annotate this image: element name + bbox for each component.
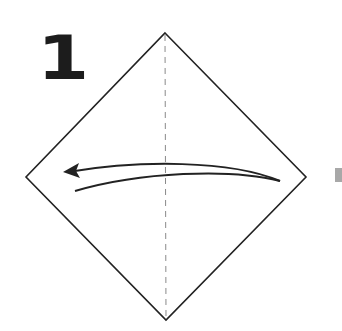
diagram-canvas — [0, 0, 342, 331]
paper-square-diamond — [26, 33, 306, 320]
valley-fold-line — [165, 35, 166, 318]
origami-step-diagram: 1 — [0, 0, 342, 331]
adjacent-page-fragment — [335, 168, 342, 182]
fold-arrow-icon — [63, 163, 280, 191]
